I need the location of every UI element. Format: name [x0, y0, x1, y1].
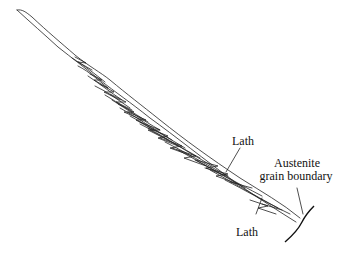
- lath-lower-leader: [256, 198, 262, 214]
- lath-upper-leader: [226, 148, 240, 172]
- austenite-label-line2: grain boundary: [250, 170, 342, 182]
- austenite-label-line1: Austenite: [254, 157, 340, 169]
- austenite-grain-boundary: [285, 206, 314, 242]
- lath-martensite-diagram: [0, 0, 342, 256]
- austenite-leader: [297, 188, 303, 214]
- lath-upper-label: Lath: [232, 135, 254, 147]
- lath-packet-outline: [17, 10, 300, 218]
- lath-lower-label: Lath: [236, 226, 258, 238]
